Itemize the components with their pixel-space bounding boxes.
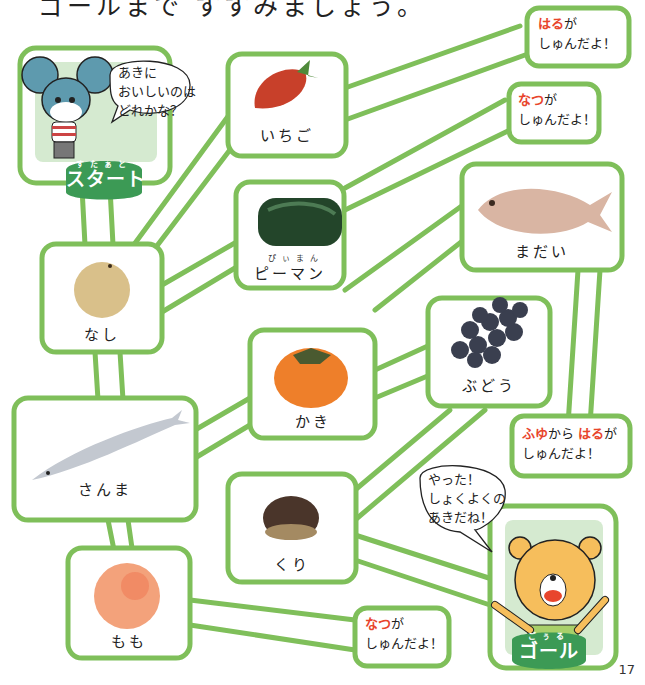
bear-speech: やった！ しょくよくの あきだね！ xyxy=(428,470,506,527)
food-label-piman[interactable]: ピーマン xyxy=(236,262,344,283)
speech-line: あきに xyxy=(118,63,196,82)
pear-icon xyxy=(74,262,130,318)
chestnut-icon xyxy=(263,496,319,540)
season-line2: しゅんだよ！ xyxy=(522,444,617,464)
season-highlight-2: はる xyxy=(578,426,604,441)
speech-line: やった！ xyxy=(428,470,506,489)
persimmon-icon xyxy=(274,348,348,408)
path-ichigo-note xyxy=(345,26,520,88)
season-suffix: が xyxy=(391,616,404,631)
speech-line: しょくよくの xyxy=(428,489,506,508)
food-label-sanma[interactable]: さんま xyxy=(14,478,196,499)
season-mid: から xyxy=(548,426,574,441)
start-badge-label: スタート xyxy=(66,169,142,189)
food-label-kuri[interactable]: くり xyxy=(228,553,356,574)
season-line2: しゅんだよ！ xyxy=(518,110,596,130)
food-label-madai[interactable]: まだい xyxy=(462,240,622,261)
speech-line: あきだね！ xyxy=(428,508,506,527)
season-line2: しゅんだよ！ xyxy=(365,634,443,654)
goal-badge-label: ゴール xyxy=(512,641,586,661)
speech-line: どれかな？ xyxy=(118,101,196,120)
speech-line: おいしいのは xyxy=(118,82,196,101)
green-pepper-icon xyxy=(258,198,342,246)
food-label-momo[interactable]: もも xyxy=(68,630,190,651)
page-number: 17 xyxy=(618,662,635,677)
start-badge[interactable]: すたぁと スタート xyxy=(66,160,142,189)
season-line2: しゅんだよ！ xyxy=(538,34,616,54)
peach-icon xyxy=(94,563,160,629)
food-label-nashi[interactable]: なし xyxy=(42,323,162,344)
season-suffix: が xyxy=(564,16,577,31)
season-note-momo: なつが しゅんだよ！ xyxy=(365,614,443,654)
season-highlight: ふゆ xyxy=(522,426,548,441)
season-highlight: なつ xyxy=(365,616,391,631)
mouse-speech: あきに おいしいのは どれかな？ xyxy=(118,63,196,120)
season-suffix: が xyxy=(604,426,617,441)
food-label-kaki[interactable]: かき xyxy=(250,410,375,431)
season-highlight: はる xyxy=(538,16,564,31)
season-note-ichigo: はるが しゅんだよ！ xyxy=(538,14,616,54)
season-note-madai: ふゆから はるが しゅんだよ！ xyxy=(522,424,617,464)
season-suffix: が xyxy=(544,92,557,107)
food-label-budou[interactable]: ぶどう xyxy=(428,374,550,395)
food-label-ichigo[interactable]: いちご xyxy=(228,124,346,145)
goal-badge[interactable]: ごぅる ゴール xyxy=(512,632,586,661)
season-note-piman: なつが しゅんだよ！ xyxy=(518,90,596,130)
season-highlight: なつ xyxy=(518,92,544,107)
